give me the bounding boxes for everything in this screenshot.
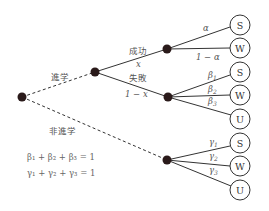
prob-gamma3: γ3 (209, 165, 218, 176)
success-node (163, 45, 172, 54)
leaf-noadv-S: S (230, 133, 250, 153)
leaf-success-W: W (230, 38, 250, 58)
svg-text:W: W (235, 161, 245, 172)
branch-failure-U (168, 97, 231, 115)
equation-beta: β₁ + β₂ + β₃ = 1 (27, 152, 95, 162)
svg-text:U: U (236, 185, 244, 196)
leaf-noadv-U: U (230, 180, 250, 200)
label-advance: 進学 (51, 72, 69, 82)
prob-beta3: β3 (207, 96, 217, 107)
equation-gamma: γ₁ + γ₂ + γ₃ = 1 (27, 168, 95, 178)
leaf-failure-U: U (230, 109, 250, 129)
svg-text:S: S (237, 138, 244, 149)
svg-text:W: W (235, 90, 245, 101)
svg-text:W: W (235, 43, 245, 54)
probability-tree-diagram: S W S W U S W U 進学 非進学 成功 x 失敗 1 − x α 1… (0, 0, 269, 211)
prob-beta1: β1 (207, 70, 217, 81)
svg-text:S: S (237, 67, 244, 78)
prob-beta2: β2 (207, 84, 217, 95)
branch-noadv-S (167, 146, 230, 160)
svg-text:U: U (236, 114, 244, 125)
failure-node (164, 93, 173, 102)
prob-failure: 1 − x (125, 89, 148, 99)
label-failure: 失敗 (129, 73, 147, 83)
label-no-advance: 非進学 (49, 126, 76, 136)
leaf-success-S: S (230, 15, 250, 35)
branch-noadv-W (167, 160, 230, 166)
no-advance-node (163, 156, 172, 165)
root-node (18, 93, 27, 102)
branch-noadv-U (167, 160, 231, 186)
prob-success: x (136, 59, 141, 69)
prob-gamma1: γ1 (209, 137, 218, 148)
label-success: 成功 (129, 46, 147, 56)
leaf-failure-W: W (230, 85, 250, 105)
branch-success-W (167, 48, 230, 49)
leaf-failure-S: S (230, 62, 250, 82)
prob-gamma2: γ2 (209, 151, 218, 162)
branch-no-advance (22, 97, 167, 160)
leaf-noadv-W: W (230, 156, 250, 176)
branch-failure-W (168, 95, 230, 97)
branch-success-S (167, 27, 230, 49)
svg-text:S: S (237, 20, 244, 31)
prob-alpha: α (203, 23, 209, 33)
advance-node (91, 68, 100, 77)
prob-one-minus-alpha: 1 − α (196, 52, 220, 62)
branch-failure-S (168, 75, 230, 97)
